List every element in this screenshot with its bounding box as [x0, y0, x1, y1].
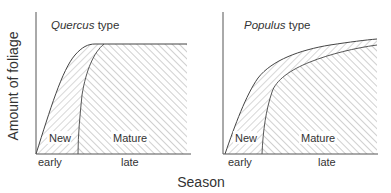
late-label: late: [121, 156, 139, 168]
early-label: early: [38, 156, 62, 168]
panel-title: Quercus type: [51, 19, 119, 31]
panel-quercus: Quercus type New Mature early late: [36, 12, 191, 168]
mature-label: Mature: [113, 132, 147, 144]
panel-title: Populus type: [244, 19, 311, 31]
panel-populus: Populus type New Mature early late: [223, 12, 378, 168]
early-label: early: [228, 156, 252, 168]
new-label: New: [49, 132, 71, 144]
mature-label: Mature: [301, 132, 335, 144]
x-axis-label: Season: [177, 174, 224, 190]
foliage-diagram: Amount of foliage Season Quercus type Ne…: [0, 0, 391, 193]
y-axis-label: Amount of foliage: [5, 31, 21, 140]
new-label: New: [235, 132, 257, 144]
late-label: late: [318, 156, 336, 168]
